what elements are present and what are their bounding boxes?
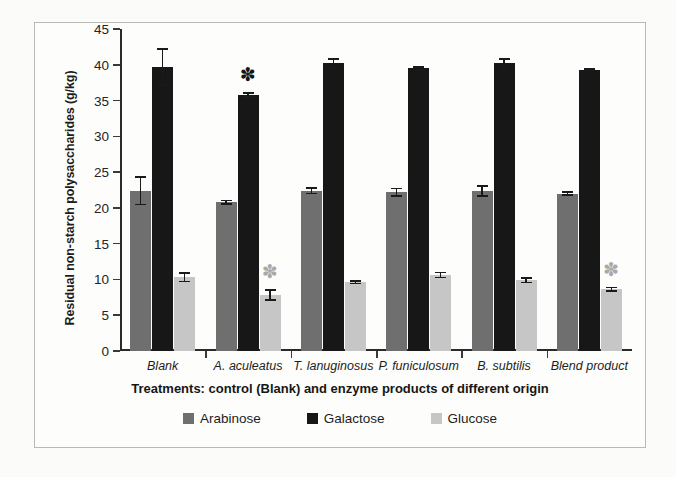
bar-group bbox=[386, 29, 451, 351]
y-axis-tick-label: 10 bbox=[94, 272, 109, 287]
significance-asterisk: ✽ bbox=[603, 260, 619, 279]
error-bar-cap bbox=[562, 191, 573, 193]
y-axis-tick bbox=[113, 136, 120, 138]
bar-galactose[interactable] bbox=[408, 68, 429, 351]
y-axis-tick bbox=[113, 64, 120, 66]
bar-glucose[interactable] bbox=[174, 277, 195, 351]
scanned-figure-page: Residual non-starch polysaccharides (g/k… bbox=[0, 0, 676, 477]
y-axis-tick bbox=[113, 28, 120, 30]
y-axis-tick-label: 45 bbox=[94, 22, 109, 37]
bar-arabinose[interactable] bbox=[301, 191, 322, 351]
error-bar-cap bbox=[521, 282, 532, 284]
legend-swatch-icon bbox=[183, 413, 194, 424]
y-axis-tick bbox=[113, 314, 120, 316]
error-bar-cap bbox=[477, 195, 488, 197]
error-bar-cap bbox=[521, 277, 532, 279]
y-axis-tick bbox=[113, 100, 120, 102]
category-label: Blank bbox=[147, 359, 178, 373]
x-axis-tick bbox=[205, 351, 207, 358]
bar-galactose[interactable] bbox=[238, 95, 259, 351]
error-bar-cap bbox=[435, 277, 446, 279]
legend-label: Glucose bbox=[448, 411, 498, 426]
significance-asterisk: ✽ bbox=[262, 262, 278, 281]
category-label: A. aculeatus bbox=[214, 359, 283, 373]
y-axis-tick bbox=[113, 171, 120, 173]
x-axis-tick bbox=[547, 351, 549, 358]
error-bar-cap bbox=[221, 200, 232, 202]
y-axis-line bbox=[120, 29, 122, 351]
error-bar-cap bbox=[584, 70, 595, 72]
x-axis-tick bbox=[291, 351, 293, 358]
bar-galactose[interactable] bbox=[152, 67, 173, 351]
y-axis-tick-label: 0 bbox=[101, 344, 109, 359]
y-axis-tick-label: 30 bbox=[94, 129, 109, 144]
error-bar-cap bbox=[306, 193, 317, 195]
bar-glucose[interactable] bbox=[260, 295, 281, 351]
legend-item[interactable]: Galactose bbox=[307, 411, 385, 426]
error-bar-cap bbox=[562, 194, 573, 196]
error-bar-cap bbox=[265, 299, 276, 301]
bar-galactose[interactable] bbox=[579, 70, 600, 351]
x-axis-tick bbox=[461, 351, 463, 358]
error-bar-cap bbox=[135, 204, 146, 206]
error-bar-cap bbox=[413, 66, 424, 68]
category-label: P. funiculosum bbox=[378, 359, 458, 373]
error-bar-cap bbox=[328, 67, 339, 69]
plot-inner: 051015202530354045✽✽✽ bbox=[120, 29, 632, 351]
bar-group bbox=[472, 29, 537, 351]
category-labels: BlankA. aculeatusT. lanuginosusP. funicu… bbox=[120, 359, 632, 381]
error-bar-cap bbox=[135, 176, 146, 178]
y-axis-tick-label: 20 bbox=[94, 200, 109, 215]
bar-arabinose[interactable] bbox=[386, 192, 407, 351]
significance-asterisk: ✽ bbox=[240, 65, 256, 84]
x-axis-title: Treatments: control (Blank) and enzyme p… bbox=[35, 381, 645, 396]
bar-glucose[interactable] bbox=[601, 289, 622, 351]
error-bar-cap bbox=[179, 281, 190, 283]
category-label: T. lanuginosus bbox=[293, 359, 373, 373]
bar-group: ✽✽ bbox=[216, 29, 281, 351]
y-axis-tick bbox=[113, 207, 120, 209]
bar-galactose[interactable] bbox=[494, 63, 515, 351]
bar-arabinose[interactable] bbox=[130, 191, 151, 351]
y-axis-tick-label: 35 bbox=[94, 93, 109, 108]
bar-group bbox=[301, 29, 366, 351]
error-bar-cap bbox=[179, 272, 190, 274]
y-axis-tick bbox=[113, 350, 120, 352]
error-bar-cap bbox=[391, 188, 402, 190]
y-axis-tick-label: 25 bbox=[94, 165, 109, 180]
y-axis-tick bbox=[113, 243, 120, 245]
error-bar-cap bbox=[306, 187, 317, 189]
plot-area: 051015202530354045✽✽✽ bbox=[120, 29, 632, 351]
error-bar-cap bbox=[221, 203, 232, 205]
y-axis-title: Residual non-starch polysaccharides (g/k… bbox=[63, 28, 85, 368]
bar-glucose[interactable] bbox=[345, 282, 366, 351]
legend-item[interactable]: Glucose bbox=[431, 411, 498, 426]
error-bar-cap bbox=[243, 92, 254, 94]
error-bar-cap bbox=[243, 96, 254, 98]
category-label: B. subtilis bbox=[477, 359, 531, 373]
bar-galactose[interactable] bbox=[323, 63, 344, 351]
legend-label: Arabinose bbox=[200, 411, 261, 426]
y-axis-tick-label: 40 bbox=[94, 57, 109, 72]
bar-arabinose[interactable] bbox=[472, 191, 493, 351]
chart-legend: ArabinoseGalactoseGlucose bbox=[35, 411, 645, 426]
error-bar bbox=[140, 177, 142, 204]
legend-item[interactable]: Arabinose bbox=[183, 411, 261, 426]
bar-group bbox=[130, 29, 195, 351]
error-bar-cap bbox=[413, 69, 424, 71]
figure-frame: Residual non-starch polysaccharides (g/k… bbox=[34, 22, 646, 448]
error-bar-cap bbox=[606, 287, 617, 289]
bar-arabinose[interactable] bbox=[216, 202, 237, 351]
error-bar-cap bbox=[157, 48, 168, 50]
error-bar-cap bbox=[499, 58, 510, 60]
error-bar-cap bbox=[477, 185, 488, 187]
error-bar-cap bbox=[391, 195, 402, 197]
legend-swatch-icon bbox=[307, 413, 318, 424]
bar-arabinose[interactable] bbox=[557, 194, 578, 351]
error-bar-cap bbox=[499, 67, 510, 69]
bar-glucose[interactable] bbox=[430, 275, 451, 351]
bar-glucose[interactable] bbox=[516, 280, 537, 351]
legend-label: Galactose bbox=[324, 411, 385, 426]
y-axis-tick-label: 5 bbox=[101, 308, 109, 323]
error-bar-cap bbox=[328, 58, 339, 60]
